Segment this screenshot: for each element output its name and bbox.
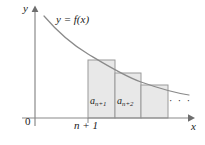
riemann-rectangle-1	[88, 60, 115, 118]
rectangle-label-subscript-2: n+2	[122, 100, 133, 107]
y-axis-label: y	[23, 3, 28, 14]
integral-test-figure: y x 0 y = f(x) n + 1 an+1 an+2 · · ·	[0, 0, 205, 145]
x-tick-label-n-plus-1: n + 1	[74, 120, 98, 131]
origin-label: 0	[25, 116, 31, 127]
rectangle-label-subscript-1: n+1	[95, 100, 106, 107]
rectangle-label-a-n-plus-1: an+1	[90, 96, 106, 106]
x-axis-label: x	[191, 121, 196, 132]
rectangle-label-a-n-plus-2: an+2	[117, 96, 133, 106]
ellipsis-label: · · ·	[169, 96, 192, 106]
y-axis-arrowhead	[32, 6, 39, 13]
curve-label: y = f(x)	[56, 14, 89, 25]
